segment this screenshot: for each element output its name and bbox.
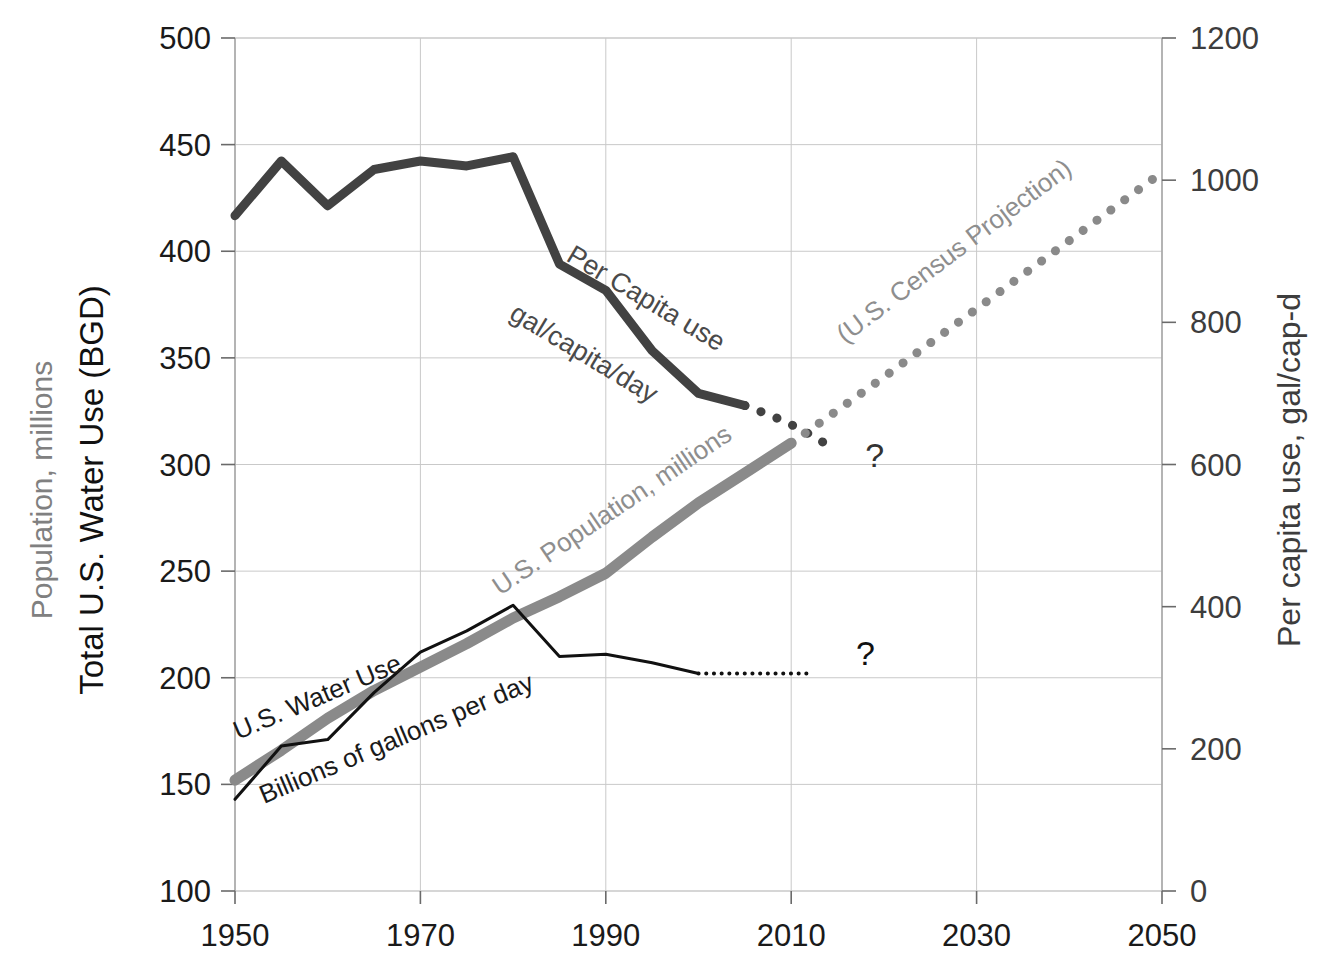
left-axis-tick-label: 200: [159, 661, 211, 696]
right-axis-tick-label: 400: [1190, 590, 1242, 625]
water-use-question-mark: ?: [856, 634, 875, 672]
left-axis-tick-label: 100: [159, 874, 211, 909]
chart-container: 1001502002503003504004505000200400600800…: [0, 0, 1336, 978]
right-axis-tick-label: 600: [1190, 448, 1242, 483]
right-axis-title-per-capita: Per capita use, gal/cap-d: [1271, 293, 1307, 647]
tick-marks: [221, 38, 1176, 904]
left-axis-tick-label: 300: [159, 448, 211, 483]
left-axis-tick-label: 250: [159, 554, 211, 589]
series-annotation: gal/capita/day: [505, 297, 664, 409]
left-axis-tick-label: 500: [159, 21, 211, 56]
left-axis-tick-label: 450: [159, 128, 211, 163]
x-axis-tick-label: 1970: [386, 918, 455, 953]
right-axis-tick-label: 1200: [1190, 21, 1259, 56]
data-series-layer: [235, 157, 1162, 800]
series-line: [235, 157, 745, 406]
left-axis-tick-label: 350: [159, 341, 211, 376]
left-axis-tick-label: 150: [159, 767, 211, 802]
right-axis-tick-label: 200: [1190, 732, 1242, 767]
line-chart: 1001502002503003504004505000200400600800…: [0, 0, 1336, 978]
x-axis-tick-label: 1990: [571, 918, 640, 953]
left-axis-title-water-use: Total U.S. Water Use (BGD): [73, 285, 110, 695]
x-axis-tick-label: 1950: [201, 918, 270, 953]
x-axis-tick-label: 2050: [1128, 918, 1197, 953]
right-axis-tick-label: 800: [1190, 305, 1242, 340]
right-axis-tick-label: 0: [1190, 874, 1207, 909]
left-axis-title-population: Population, millions: [25, 361, 58, 619]
right-axis-tick-label: 1000: [1190, 163, 1259, 198]
left-axis-tick-label: 400: [159, 234, 211, 269]
x-axis-tick-label: 2030: [942, 918, 1011, 953]
per-capita-question-mark: ?: [865, 436, 884, 474]
series-annotation: (U.S. Census Projection): [831, 153, 1078, 349]
tick-labels: 1001502002503003504004505000200400600800…: [159, 21, 1259, 953]
x-axis-tick-label: 2010: [757, 918, 826, 953]
series-line: [235, 443, 791, 780]
